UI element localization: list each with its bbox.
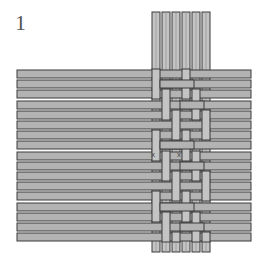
horizontal-strip bbox=[17, 80, 251, 88]
vertical-float-segment bbox=[152, 69, 160, 99]
vertical-float-segment bbox=[162, 151, 170, 181]
horizontal-strip bbox=[17, 182, 251, 190]
horizontal-strip bbox=[17, 70, 251, 78]
vertical-float-segment bbox=[202, 110, 210, 140]
vertical-float-segment bbox=[202, 232, 210, 242]
horizontal-strip bbox=[17, 172, 251, 180]
horizontal-strip bbox=[17, 131, 251, 139]
horizontal-strips-layer bbox=[17, 70, 251, 241]
crossing-marker: x bbox=[151, 150, 155, 159]
weave-diagram: xx bbox=[0, 0, 268, 262]
horizontal-strip bbox=[17, 223, 251, 231]
horizontal-strip bbox=[17, 111, 251, 119]
vertical-float-segment bbox=[172, 232, 180, 242]
vertical-float-segment bbox=[172, 110, 180, 140]
horizontal-float-segment bbox=[160, 203, 194, 211]
horizontal-float-segment bbox=[180, 223, 204, 231]
horizontal-strip bbox=[17, 152, 251, 160]
horizontal-float-segment bbox=[180, 101, 204, 109]
vertical-float-segment bbox=[162, 212, 170, 242]
horizontal-strip bbox=[17, 141, 251, 149]
crossing-marker: x bbox=[177, 150, 181, 159]
horizontal-strip bbox=[17, 233, 251, 241]
horizontal-strip bbox=[17, 101, 251, 109]
horizontal-strip bbox=[17, 192, 251, 200]
horizontal-strip bbox=[17, 203, 251, 211]
horizontal-float-segment bbox=[160, 141, 194, 149]
horizontal-float-segment bbox=[160, 80, 194, 88]
vertical-float-segment bbox=[172, 171, 180, 201]
vertical-float-segment bbox=[152, 191, 160, 222]
vertical-float-segment bbox=[162, 89, 170, 120]
vertical-float-segment bbox=[202, 171, 210, 201]
horizontal-float-segment bbox=[180, 162, 204, 170]
horizontal-strip bbox=[17, 162, 251, 170]
horizontal-strip bbox=[17, 90, 251, 98]
horizontal-strip bbox=[17, 121, 251, 129]
horizontal-strip bbox=[17, 213, 251, 221]
